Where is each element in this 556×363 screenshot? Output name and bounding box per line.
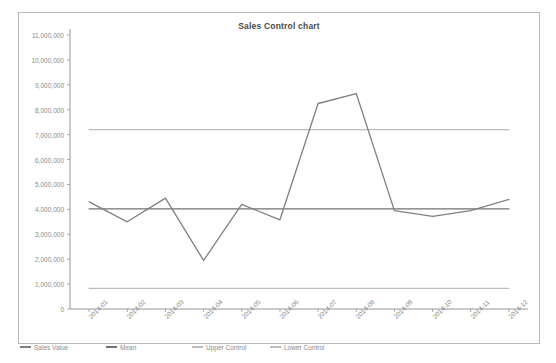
legend-label: Upper Control <box>206 344 246 351</box>
legend-label: Mean <box>120 344 136 351</box>
chart-legend: Sales ValueMeanUpper ControlLower Contro… <box>20 340 340 354</box>
legend-entry-lower-control[interactable]: Lower Control <box>270 340 324 354</box>
legend-entry-upper-control[interactable]: Upper Control <box>192 340 246 354</box>
sales-control-chart: Sales Control chart 01,000,0002,000,0003… <box>0 0 556 363</box>
legend-label: Sales Value <box>34 344 68 351</box>
legend-swatch-icon <box>20 346 31 348</box>
legend-entry-mean[interactable]: Mean <box>106 340 136 354</box>
legend-label: Lower Control <box>284 344 324 351</box>
legend-entry-sales-value[interactable]: Sales Value <box>20 340 68 354</box>
legend-swatch-icon <box>106 346 117 348</box>
plot-area <box>19 13 541 345</box>
chart-frame: Sales Control chart 01,000,0002,000,0003… <box>18 12 540 344</box>
legend-swatch-icon <box>192 346 203 348</box>
legend-swatch-icon <box>270 346 281 348</box>
